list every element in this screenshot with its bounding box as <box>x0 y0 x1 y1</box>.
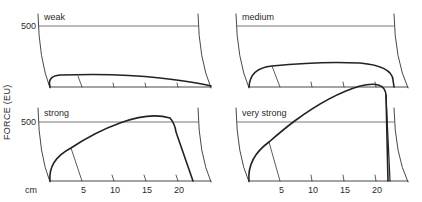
panel-left-border <box>236 14 249 88</box>
force-curve-strong <box>50 116 193 181</box>
panel-weak <box>38 14 211 88</box>
panel-strong <box>38 108 211 182</box>
x-tick-label: 10 <box>110 185 120 195</box>
panel-title-weak: weak <box>44 12 65 22</box>
panel-right-border <box>394 108 408 182</box>
x-axis-unit-label: cm <box>25 185 37 195</box>
panel-right-border <box>198 108 211 182</box>
x-tick-label: 5 <box>279 185 284 195</box>
panel-left-border <box>38 108 50 182</box>
y-tick-500-top: 500 <box>21 21 36 31</box>
x-tick-label: 20 <box>174 185 184 195</box>
panel-right-border <box>198 14 211 88</box>
x-tick-label: 15 <box>142 185 152 195</box>
force-curve-very-strong <box>249 84 388 181</box>
force-curve-medium <box>249 62 394 87</box>
force-chart-figure: FORCE (EU) 500 500 weak medium strong ve… <box>0 0 422 202</box>
x-tick-label: 5 <box>81 185 86 195</box>
panel-right-border <box>394 14 408 88</box>
panel-left-border <box>236 108 249 182</box>
panel-title-strong: strong <box>44 108 69 118</box>
y-axis-label: FORCE (EU) <box>2 85 12 141</box>
panel-title-medium: medium <box>242 12 274 22</box>
x-tick-label: 20 <box>372 185 382 195</box>
x-tick-label: 15 <box>340 185 350 195</box>
y-tick-500-bottom: 500 <box>21 117 36 127</box>
x-tick-label: 10 <box>308 185 318 195</box>
panel-medium <box>236 14 408 88</box>
panel-title-very-strong: very strong <box>242 108 287 118</box>
panel-left-border <box>38 14 50 88</box>
panel-very-strong <box>236 84 408 182</box>
force-curve-weak <box>49 74 211 87</box>
